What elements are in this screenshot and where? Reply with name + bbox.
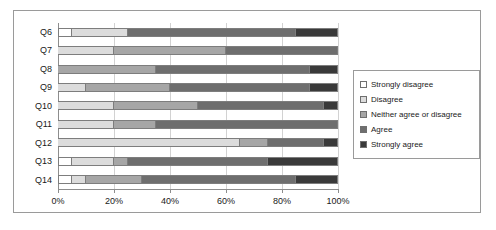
bar-segment xyxy=(58,28,72,37)
legend-swatch-icon xyxy=(360,126,367,133)
x-tick-mark xyxy=(226,189,227,193)
bar-segment xyxy=(58,157,72,166)
bar-row: Q8 xyxy=(58,60,338,78)
legend-item[interactable]: Agree xyxy=(360,122,474,137)
x-tick-label: 60% xyxy=(217,196,235,206)
legend-item[interactable]: Neither agree or disagree xyxy=(360,107,474,122)
bar-segment xyxy=(86,175,142,184)
bar-segment xyxy=(114,101,198,110)
x-tick-label: 80% xyxy=(273,196,291,206)
x-tick-mark xyxy=(282,189,283,193)
x-tick-label: 20% xyxy=(105,196,123,206)
bar-row: Q12 xyxy=(58,134,338,152)
legend-label: Disagree xyxy=(371,96,403,104)
legend-swatch-icon xyxy=(360,141,367,148)
bar-segment xyxy=(128,157,268,166)
category-label-q14: Q14 xyxy=(18,171,52,189)
bar-row: Q10 xyxy=(58,97,338,115)
bar-row: Q14 xyxy=(58,171,338,189)
legend-item[interactable]: Disagree xyxy=(360,92,474,107)
stacked-bar-q11 xyxy=(58,120,338,129)
bar-segment xyxy=(58,120,114,129)
chart-legend: Strongly disagreeDisagreeNeither agree o… xyxy=(353,70,480,159)
bar-row: Q13 xyxy=(58,152,338,170)
bar-segment xyxy=(198,101,324,110)
legend-label: Agree xyxy=(371,126,392,134)
legend-swatch-icon xyxy=(360,81,367,88)
category-label-q13: Q13 xyxy=(18,152,52,170)
stacked-bar-q13 xyxy=(58,157,338,166)
x-tick-mark xyxy=(338,189,339,193)
bar-segment xyxy=(86,83,170,92)
legend-label: Strongly agree xyxy=(371,141,423,149)
bar-segment xyxy=(58,46,114,55)
stacked-bar-q12 xyxy=(58,138,338,147)
category-label-q11: Q11 xyxy=(18,115,52,133)
plot-area: Q6Q7Q8Q9Q10Q11Q12Q13Q14 0%20%40%60%80%10… xyxy=(58,23,338,189)
bar-segment xyxy=(114,46,226,55)
category-label-q9: Q9 xyxy=(18,78,52,96)
stacked-bar-q14 xyxy=(58,175,338,184)
x-tick-label: 0% xyxy=(51,196,64,206)
bar-segment xyxy=(170,83,310,92)
bar-segment xyxy=(296,175,338,184)
bar-segment xyxy=(72,175,86,184)
bar-segment xyxy=(310,65,338,74)
bar-segment xyxy=(142,175,296,184)
x-tick-label: 40% xyxy=(161,196,179,206)
stacked-bar-q7 xyxy=(58,46,338,55)
bar-segment xyxy=(58,83,86,92)
bar-segment xyxy=(268,157,338,166)
bar-segment xyxy=(324,101,338,110)
bar-segment xyxy=(128,28,296,37)
stacked-bar-q9 xyxy=(58,83,338,92)
bar-segment xyxy=(72,28,128,37)
legend-item[interactable]: Strongly agree xyxy=(360,137,474,152)
bar-segment xyxy=(156,65,310,74)
category-label-q7: Q7 xyxy=(18,41,52,59)
bar-segment xyxy=(58,175,72,184)
bar-segment xyxy=(114,157,128,166)
gridline-100% xyxy=(338,23,339,189)
legend-swatch-icon xyxy=(360,96,367,103)
stacked-bar-q6 xyxy=(58,28,338,37)
category-label-q8: Q8 xyxy=(18,60,52,78)
category-label-q6: Q6 xyxy=(18,23,52,41)
bar-segment xyxy=(310,83,338,92)
x-tick-label: 100% xyxy=(326,196,349,206)
category-label-q12: Q12 xyxy=(18,134,52,152)
category-label-q10: Q10 xyxy=(18,97,52,115)
bar-segment xyxy=(226,46,338,55)
legend-swatch-icon xyxy=(360,111,367,118)
bar-segment xyxy=(296,28,338,37)
bar-row: Q11 xyxy=(58,115,338,133)
x-tick-mark xyxy=(170,189,171,193)
legend-item[interactable]: Strongly disagree xyxy=(360,77,474,92)
x-axis-line xyxy=(58,189,338,190)
bar-segment xyxy=(240,138,268,147)
bar-segment xyxy=(58,138,240,147)
stacked-bar-q10 xyxy=(58,101,338,110)
legend-label: Strongly disagree xyxy=(371,81,433,89)
bar-row: Q6 xyxy=(58,23,338,41)
legend-label: Neither agree or disagree xyxy=(371,111,462,119)
bar-segment xyxy=(58,101,114,110)
bar-row: Q9 xyxy=(58,78,338,96)
bar-segment xyxy=(324,138,338,147)
chart-frame: Q6Q7Q8Q9Q10Q11Q12Q13Q14 0%20%40%60%80%10… xyxy=(13,10,481,213)
bar-segment xyxy=(58,65,156,74)
bar-segment xyxy=(114,120,156,129)
bar-segment xyxy=(156,120,338,129)
stacked-bar-q8 xyxy=(58,65,338,74)
bar-segment xyxy=(72,157,114,166)
bar-segment xyxy=(268,138,324,147)
bar-row: Q7 xyxy=(58,41,338,59)
x-tick-mark xyxy=(114,189,115,193)
x-tick-mark xyxy=(58,189,59,193)
